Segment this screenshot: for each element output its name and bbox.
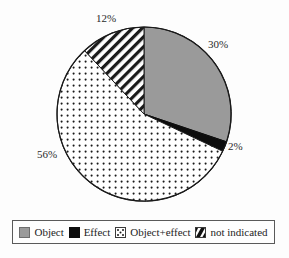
slice-label-object: 30% — [208, 38, 228, 50]
dotted-swatch-icon — [115, 227, 126, 238]
legend-label-not-indicated: not indicated — [210, 227, 267, 238]
pie-chart-canvas: 12% 30% 2% 56% — [0, 0, 289, 215]
solid-gray-swatch-icon — [19, 227, 30, 238]
pie-chart-figure: 12% 30% 2% 56% Object Effect — [0, 0, 289, 258]
legend-item-object: Object — [19, 227, 63, 238]
legend-label-object-effect: Object+effect — [130, 227, 190, 238]
diagonal-hatch-swatch-icon — [195, 227, 206, 238]
slice-label-not-indicated: 12% — [96, 12, 116, 24]
legend-label-object: Object — [34, 227, 63, 238]
slice-label-effect: 2% — [228, 140, 243, 152]
legend-item-not-indicated: not indicated — [195, 227, 267, 238]
slice-label-object-effect: 56% — [37, 148, 57, 160]
pie-chart-svg — [0, 0, 289, 215]
legend-item-object-effect: Object+effect — [115, 227, 190, 238]
legend-item-effect: Effect — [69, 227, 111, 238]
solid-black-swatch-icon — [69, 227, 80, 238]
chart-legend: Object Effect Object+effect — [12, 220, 275, 244]
legend-label-effect: Effect — [84, 227, 111, 238]
